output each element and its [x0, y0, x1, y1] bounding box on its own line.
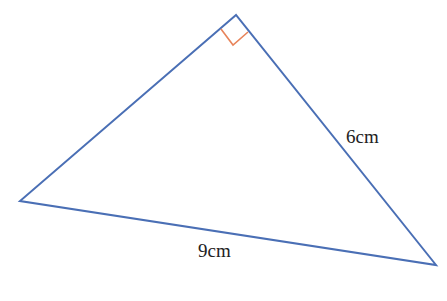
right-leg-label: 6cm — [346, 126, 379, 147]
right-angle-marker — [221, 29, 248, 45]
triangle-diagram: 6cm 9cm — [0, 0, 447, 301]
hypotenuse-label: 9cm — [198, 240, 231, 261]
